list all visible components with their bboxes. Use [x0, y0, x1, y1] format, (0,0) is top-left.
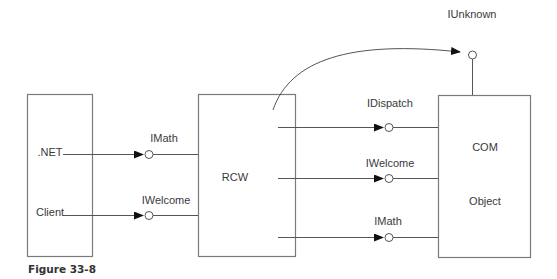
edge-rcw-com-imath: IMath — [278, 215, 438, 242]
interface-label: IWelcome — [366, 157, 415, 169]
figure-caption: Figure 33-8 — [28, 263, 96, 275]
interface-lollipop-icon — [145, 151, 153, 159]
interface-lollipop-icon — [145, 212, 153, 220]
interface-lollipop-icon — [385, 175, 393, 183]
com-label-line-1: COM — [472, 141, 498, 153]
com-label-line-2: Object — [469, 195, 501, 207]
client-label-line-2: Client — [36, 206, 64, 218]
rcw-node: RCW — [199, 95, 296, 257]
interface-lollipop-icon — [385, 124, 393, 132]
com-interop-diagram: .NET Client RCW COM Object IMath IWelcom… — [0, 0, 557, 279]
interface-label: IMath — [150, 132, 178, 144]
interface-label: IWelcome — [142, 194, 191, 206]
edge-rcw-com-iwelcome: IWelcome — [278, 157, 438, 183]
edge-rcw-com-idispatch: IDispatch — [278, 97, 438, 132]
com-object-box — [439, 96, 531, 258]
interface-label: IDispatch — [367, 97, 413, 109]
client-label-line-1: .NET — [37, 146, 62, 158]
interface-lollipop-icon — [385, 234, 393, 242]
interface-lollipop-icon — [469, 51, 477, 59]
dotnet-client-box — [28, 95, 93, 257]
interface-label: IMath — [374, 215, 402, 227]
rcw-label: RCW — [222, 171, 249, 183]
interface-label: IUnknown — [448, 8, 497, 20]
dotnet-client-node: .NET Client — [28, 95, 93, 257]
com-object-node: COM Object — [439, 96, 531, 258]
